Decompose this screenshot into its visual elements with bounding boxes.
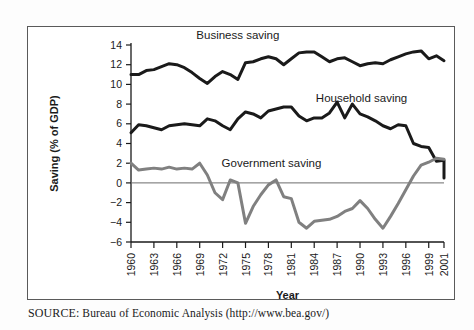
x-tick-label: 2001	[438, 253, 450, 277]
source-label: SOURCE:	[28, 306, 79, 320]
x-tick-label: 1969	[194, 253, 206, 277]
x-tick-label: 1972	[217, 253, 229, 277]
y-tick-label: 8	[116, 98, 122, 110]
x-tick-label: 1999	[423, 253, 435, 277]
source-note: SOURCE: Bureau of Economic Analysis (htt…	[28, 306, 329, 321]
y-tick-label: 4	[116, 137, 122, 149]
y-tick-label: 10	[110, 78, 122, 90]
x-tick-label: 1978	[262, 253, 274, 277]
chart-frame: 14121086420−2−4−619601963196619691972197…	[27, 26, 455, 300]
x-tick-label: 1975	[240, 253, 252, 277]
y-tick-label: 14	[110, 39, 122, 51]
y-tick-label: 2	[116, 157, 122, 169]
x-tick-label: 1981	[285, 253, 297, 277]
series-line-business-saving	[131, 51, 444, 84]
series-annotation: Government saving	[222, 157, 322, 169]
x-tick-label: 1996	[400, 253, 412, 277]
x-tick-label: 1984	[308, 253, 320, 277]
x-tick-label: 1963	[148, 253, 160, 277]
y-tick-label: 6	[116, 117, 122, 129]
y-tick-label: 0	[116, 177, 122, 189]
saving-line-chart: 14121086420−2−4−619601963196619691972197…	[28, 27, 456, 301]
x-tick-label: 1960	[125, 253, 137, 277]
figure-page: 14121086420−2−4−619601963196619691972197…	[0, 0, 474, 330]
x-axis-title: Year	[276, 289, 300, 301]
y-tick-label: −4	[110, 216, 122, 228]
series-annotation: Household saving	[316, 92, 407, 104]
x-tick-label: 1990	[354, 253, 366, 277]
y-axis-title: Saving (% of GDP)	[48, 95, 60, 192]
source-text: Bureau of Economic Analysis (http://www.…	[79, 307, 329, 319]
series-annotation: Business saving	[196, 29, 279, 41]
y-tick-label: −6	[110, 236, 122, 248]
x-tick-label: 1993	[377, 253, 389, 277]
y-tick-label: 12	[110, 58, 122, 70]
y-tick-label: −2	[110, 196, 122, 208]
x-tick-label: 1966	[171, 253, 183, 277]
x-tick-label: 1987	[331, 253, 343, 277]
